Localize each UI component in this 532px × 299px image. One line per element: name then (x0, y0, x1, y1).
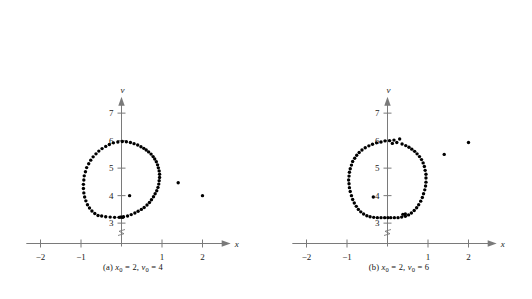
data-point (351, 160, 354, 163)
data-point (351, 198, 354, 201)
data-point (407, 213, 410, 216)
data-point (83, 195, 86, 198)
data-point (359, 210, 362, 213)
data-point (423, 188, 426, 191)
data-point (84, 199, 87, 202)
panel-b-caption-x-value: 2 (399, 262, 403, 272)
panel-a-axis-break-icon (118, 230, 125, 236)
data-point (419, 199, 422, 202)
data-point (133, 211, 136, 214)
panel-b-x-tick-label-1: −1 (342, 252, 352, 262)
data-point (391, 142, 394, 145)
data-point (350, 194, 353, 197)
data-point (347, 178, 350, 181)
data-point (126, 214, 129, 217)
data-point (82, 187, 85, 190)
panel-a-v-axis-arrow (118, 97, 124, 106)
data-point (357, 151, 360, 154)
data-point (177, 181, 180, 184)
data-point (386, 216, 389, 219)
data-point (125, 140, 128, 143)
data-point (128, 194, 131, 197)
data-point (113, 216, 116, 219)
data-point (443, 153, 446, 156)
panel-a-caption: (a) x0 = 2, v0 = 4 (0, 262, 266, 272)
data-point (357, 208, 360, 211)
data-point (424, 176, 427, 179)
panel-b-x-axis-arrow (488, 240, 497, 246)
data-point (108, 143, 111, 146)
data-point (379, 216, 382, 219)
data-point (348, 186, 351, 189)
data-point (157, 169, 160, 172)
panel-a-caption-prefix: (a) (103, 262, 113, 272)
data-point (388, 139, 391, 142)
data-point (156, 186, 159, 189)
data-point (379, 140, 382, 143)
data-point (417, 203, 420, 206)
panel-a-x-tick-label-0: −2 (36, 252, 46, 262)
data-point (421, 161, 424, 164)
panel-b-caption-x-sub: 0 (386, 266, 389, 273)
data-point (121, 140, 124, 143)
data-point (467, 141, 470, 144)
panel-b-caption-v-sub: 0 (412, 266, 415, 273)
data-point (96, 214, 99, 217)
data-point (400, 142, 403, 145)
data-point (347, 182, 350, 185)
panel-b: x−2−112v34567 (b) x0 = 2, v0 = 6 (266, 0, 532, 299)
panel-b-x-tick-label-2: 1 (426, 252, 431, 262)
panel-b-v-tick-label-1: 4 (375, 191, 380, 201)
data-point (87, 162, 90, 165)
panel-a-v-tick-label-2: 5 (109, 163, 114, 173)
data-point (129, 141, 132, 144)
panel-a: x−2−112v34567 (a) x0 = 2, v0 = 4 (0, 0, 266, 299)
data-point (365, 214, 368, 217)
data-point (90, 209, 93, 212)
panel-a-x-axis-label: x (234, 239, 239, 249)
data-point (100, 147, 103, 150)
panel-a-svg: x−2−112v34567 (0, 0, 266, 262)
data-point (349, 190, 352, 193)
data-point (383, 216, 386, 219)
data-point (116, 140, 119, 143)
data-point (97, 149, 100, 152)
panel-b-x-tick-label-0: −2 (302, 252, 312, 262)
figure-container: x−2−112v34567 (a) x0 = 2, v0 = 4 x−2−112… (0, 0, 532, 299)
data-point (153, 192, 156, 195)
data-point (353, 157, 356, 160)
data-point (91, 155, 94, 158)
data-point (372, 195, 375, 198)
data-point (156, 163, 159, 166)
data-point (422, 192, 425, 195)
data-point (82, 191, 85, 194)
data-point (104, 145, 107, 148)
panel-b-v-tick-label-3: 6 (375, 136, 380, 146)
data-point (362, 212, 365, 215)
data-point (410, 147, 413, 150)
panel-a-plot: x−2−112v34567 (0, 0, 266, 262)
data-point (392, 138, 395, 141)
data-point (393, 216, 396, 219)
data-point (355, 154, 358, 157)
data-point (383, 139, 386, 142)
data-point (368, 215, 371, 218)
panel-b-v-tick-label-2: 5 (375, 163, 380, 173)
data-point (132, 142, 135, 145)
data-point (407, 146, 410, 149)
data-point (353, 201, 356, 204)
data-point (94, 152, 97, 155)
data-point (150, 198, 153, 201)
data-point (136, 143, 139, 146)
data-point (86, 203, 89, 206)
data-point (157, 182, 160, 185)
panel-b-x-tick-label-3: 2 (466, 252, 471, 262)
panel-b-data-points (347, 137, 470, 219)
panel-a-x-tick-label-2: 1 (160, 252, 165, 262)
data-point (424, 180, 427, 183)
data-point (136, 210, 139, 213)
data-point (119, 215, 122, 218)
data-point (83, 174, 86, 177)
data-point (82, 178, 85, 181)
panel-a-x-axis-arrow (222, 240, 231, 246)
